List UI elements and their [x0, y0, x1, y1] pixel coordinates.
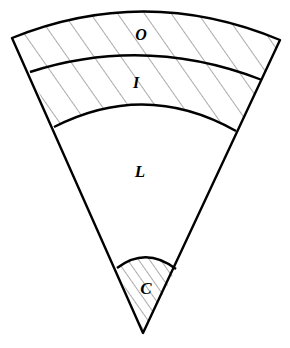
layered-sector-diagram: O I L C	[0, 0, 290, 348]
label-l: L	[134, 162, 145, 181]
label-o: O	[135, 26, 147, 43]
label-c: C	[140, 279, 152, 298]
label-i: I	[132, 74, 140, 91]
